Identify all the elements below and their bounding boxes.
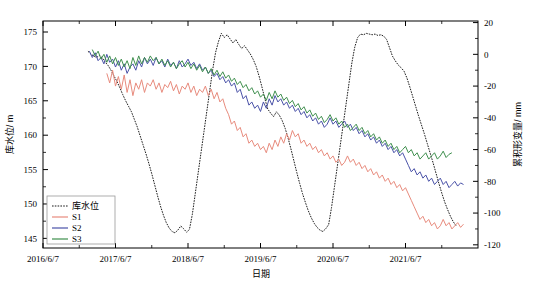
y2-tick-label: -80 [484,177,496,187]
x-tick-label: 2017/6/7 [99,254,132,264]
y2-tick-label: -20 [484,81,496,91]
y-tick-label: 175 [24,27,38,37]
x-axis-title: 日期 [252,269,270,279]
series-line-S2 [89,51,463,188]
y2-tick-label: -120 [484,240,501,250]
x-tick-label: 2016/6/7 [27,254,60,264]
x-tick-label: 2018/6/7 [172,254,205,264]
reservoir-level-deformation-chart: 145150155160165170175200-20-40-60-80-100… [0,0,537,296]
y2-axis-title: 累积形变量/ mm [512,102,523,167]
y2-tick-label: -40 [484,113,496,123]
y-tick-label: 145 [24,234,38,244]
y-axis-title: 库水位/ m [4,115,15,155]
x-tick-label: 2021/6/7 [389,254,422,264]
x-tick-label: 2019/6/7 [244,254,277,264]
y2-tick-label: -100 [484,208,501,218]
legend-label-S2: S2 [72,223,82,233]
y2-tick-label: 0 [484,50,489,60]
y-tick-label: 170 [24,62,38,72]
legend-label-S3: S3 [72,234,82,244]
series-line-S1 [107,70,464,229]
chart-figure: 145150155160165170175200-20-40-60-80-100… [0,0,537,296]
legend-label-库水位: 库水位 [72,200,99,211]
x-tick-label: 2020/6/7 [317,254,350,264]
y-tick-label: 150 [24,199,38,209]
y2-tick-label: -60 [484,145,496,155]
legend-label-S1: S1 [72,212,82,222]
y2-tick-label: 20 [484,18,494,28]
y-tick-label: 155 [24,165,38,175]
y-tick-label: 165 [24,96,38,106]
y-tick-label: 160 [24,130,38,140]
